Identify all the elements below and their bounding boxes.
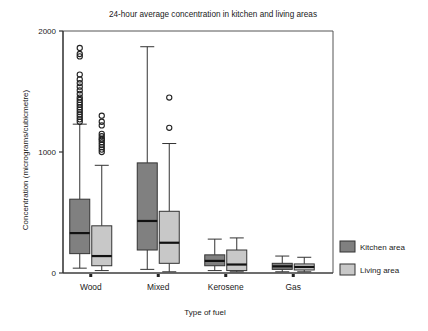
box-living-kerosene [227, 238, 247, 272]
outlier-point [167, 125, 172, 130]
legend-item-kitchen-area: Kitchen area [340, 241, 405, 252]
boxplot-chart: 24-hour average concentration in kitchen… [0, 0, 428, 331]
y-tick-label-0: 0 [52, 269, 57, 278]
outlier-point [99, 119, 104, 124]
box-kitchen-wood [70, 45, 90, 268]
legend-swatch [340, 264, 355, 275]
x-axis: WoodMixedKeroseneGas [80, 274, 301, 292]
box-living-mixed [159, 95, 179, 272]
box-body [92, 226, 112, 266]
x-tick-label-mixed: Mixed [147, 282, 170, 292]
outlier-point [77, 45, 82, 50]
x-tick-kerosene [224, 274, 227, 277]
x-tick-label-wood: Wood [80, 282, 102, 292]
y-tick-label-1000: 1000 [38, 148, 56, 157]
chart-container: 24-hour average concentration in kitchen… [0, 0, 428, 331]
box-kitchen-gas [272, 256, 292, 272]
box-kitchen-mixed [137, 47, 157, 270]
box-body [70, 199, 90, 253]
y-axis: 010002000 [38, 27, 63, 278]
box-body [137, 163, 157, 250]
box-series-group [70, 45, 315, 271]
chart-legend: Kitchen areaLiving area [340, 241, 405, 275]
box-body [159, 211, 179, 263]
y-axis-label: Concentration (micrograms/cubicmetre) [21, 89, 30, 230]
legend-item-living-area: Living area [340, 264, 400, 275]
box-body [227, 250, 247, 271]
x-tick-label-kerosene: Kerosene [208, 282, 244, 292]
x-tick-gas [292, 274, 295, 277]
box-series-living [92, 95, 315, 272]
box-kitchen-kerosene [205, 239, 225, 270]
legend-label: Living area [360, 266, 400, 275]
x-tick-label-gas: Gas [286, 282, 301, 292]
legend-swatch [340, 241, 355, 252]
x-tick-wood [89, 274, 92, 277]
x-tick-mixed [157, 274, 160, 277]
x-axis-label: Type of fuel [184, 308, 226, 317]
outlier-point [167, 95, 172, 100]
box-living-gas [294, 257, 314, 272]
legend-label: Kitchen area [360, 243, 405, 252]
chart-title: 24-hour average concentration in kitchen… [109, 10, 317, 19]
outlier-point [99, 113, 104, 118]
box-living-wood [92, 113, 112, 270]
y-tick-label-2000: 2000 [38, 27, 56, 36]
